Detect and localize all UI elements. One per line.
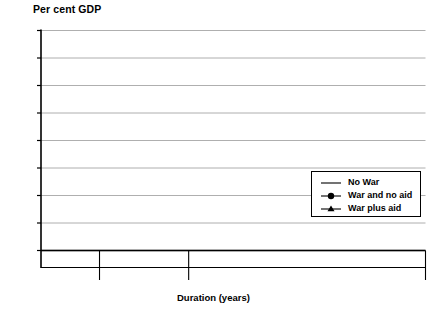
legend-label: War plus aid [348, 203, 401, 213]
chart-legend: No War War and no aid War plus aid [311, 171, 421, 217]
legend-label: No War [348, 177, 379, 187]
legend-line-swatch [318, 176, 344, 189]
x-axis-title: Duration (years) [177, 292, 250, 303]
chart-figure: Per cent GDP Duration (years) No War War… [0, 0, 436, 313]
legend-circle-swatch [318, 189, 344, 202]
y-axis-title: Per cent GDP [33, 3, 101, 15]
legend-triangle-swatch [318, 202, 344, 215]
legend-label: War and no aid [348, 190, 412, 200]
plot-canvas [0, 0, 436, 313]
